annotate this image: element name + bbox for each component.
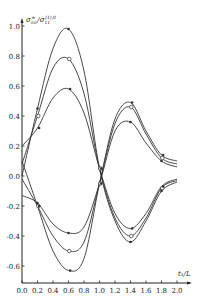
data-curves bbox=[22, 28, 177, 271]
data-point-marker bbox=[67, 232, 70, 235]
curve-upper-3 bbox=[22, 88, 177, 228]
data-point-marker bbox=[162, 185, 165, 188]
y-tick-label: 0.2 bbox=[9, 143, 20, 151]
line-chart: 1.00.80.60.40.20.0-0.2-0.4-0.6 0.00.20.4… bbox=[0, 0, 206, 297]
x-tick-label: 0.6 bbox=[63, 287, 75, 295]
data-point-marker bbox=[69, 88, 72, 91]
data-point-marker bbox=[38, 127, 41, 130]
data-point-marker bbox=[69, 269, 72, 272]
x-tick-label: 1.2 bbox=[109, 287, 120, 295]
data-point-marker bbox=[36, 107, 39, 110]
x-tick-label: 0.8 bbox=[78, 287, 89, 295]
data-point-marker bbox=[38, 205, 41, 208]
data-point-marker bbox=[68, 57, 72, 61]
data-point-marker bbox=[130, 234, 134, 238]
y-tick-label: 0.8 bbox=[9, 53, 20, 61]
x-tick-label: 0.2 bbox=[32, 287, 43, 295]
x-tick-label: 1.6 bbox=[140, 287, 152, 295]
data-point-marker bbox=[131, 227, 134, 230]
data-point-marker bbox=[129, 121, 132, 124]
y-tick-label: 1.0 bbox=[9, 23, 20, 31]
x-tick-label: 1.8 bbox=[156, 287, 167, 295]
data-point-marker bbox=[162, 154, 165, 157]
y-axis-arrow-icon bbox=[21, 18, 24, 23]
x-axis-title: t₁/L bbox=[178, 270, 191, 278]
y-tick-label: 0.0 bbox=[9, 173, 20, 181]
x-tick-label: 1.4 bbox=[125, 287, 137, 295]
curve-lower-1 bbox=[22, 121, 177, 233]
curve-lower-3 bbox=[22, 102, 177, 271]
data-point-marker bbox=[100, 182, 103, 185]
data-point-marker bbox=[68, 249, 72, 253]
y-tick-label: -0.4 bbox=[7, 233, 21, 241]
y-tick-label: -0.2 bbox=[7, 203, 21, 211]
y-tick-label: 0.4 bbox=[9, 113, 21, 121]
y-tick-label: 0.6 bbox=[9, 83, 21, 91]
y-tick-label: -0.6 bbox=[7, 263, 21, 271]
y-axis-title: σnn±/σ11(1),0 bbox=[26, 15, 56, 25]
data-point-marker bbox=[161, 156, 165, 160]
x-tick-label: 1.0 bbox=[94, 287, 105, 295]
x-axis-arrow-icon bbox=[187, 282, 192, 285]
x-tick-label: 0.0 bbox=[16, 287, 27, 295]
curve-upper-1 bbox=[22, 28, 177, 242]
data-point-marker bbox=[37, 114, 41, 118]
data-point-marker bbox=[67, 28, 70, 31]
x-tick-label: 2.0 bbox=[171, 287, 182, 295]
data-point-marker bbox=[100, 167, 103, 170]
data-point-marker bbox=[129, 241, 132, 244]
data-point-marker bbox=[130, 105, 134, 109]
x-tick-label: 0.4 bbox=[47, 287, 59, 295]
data-point-marker bbox=[131, 101, 134, 104]
